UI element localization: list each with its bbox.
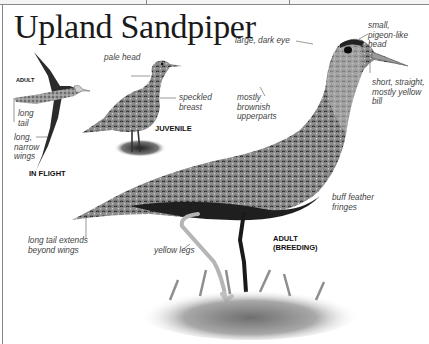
flight-adult-label: ADULT	[16, 77, 35, 84]
label-narrow-wings: long, narrow wings	[14, 133, 44, 162]
label-upperparts: mostly brownish upperparts	[237, 93, 279, 122]
grass	[140, 270, 360, 340]
label-bill: short, straight, mostly yellow bill	[372, 78, 429, 107]
caption-adult-line2: (BREEDING)	[273, 243, 318, 252]
adult-bird	[72, 39, 408, 300]
label-pigeon-head: small, pigeon-like head	[368, 21, 418, 50]
caption-adult: ADULT (BREEDING)	[273, 234, 318, 252]
caption-adult-line1: ADULT	[273, 234, 318, 243]
caption-in-flight: IN FLIGHT	[29, 169, 66, 178]
label-buff-fringes: buff feather fringes	[332, 193, 378, 212]
label-dark-eye: large, dark eye	[235, 36, 290, 46]
label-yellow-legs: yellow legs	[154, 246, 195, 256]
caption-juvenile: JUVENILE	[155, 124, 192, 133]
label-speckled-breast: speckled breast	[179, 93, 209, 112]
label-long-tail: long tail	[18, 109, 42, 128]
juvenile-bird	[82, 60, 182, 157]
label-pale-head: pale head	[104, 53, 140, 63]
label-long-tail-extends: long tail extends beyond wings	[28, 236, 88, 255]
